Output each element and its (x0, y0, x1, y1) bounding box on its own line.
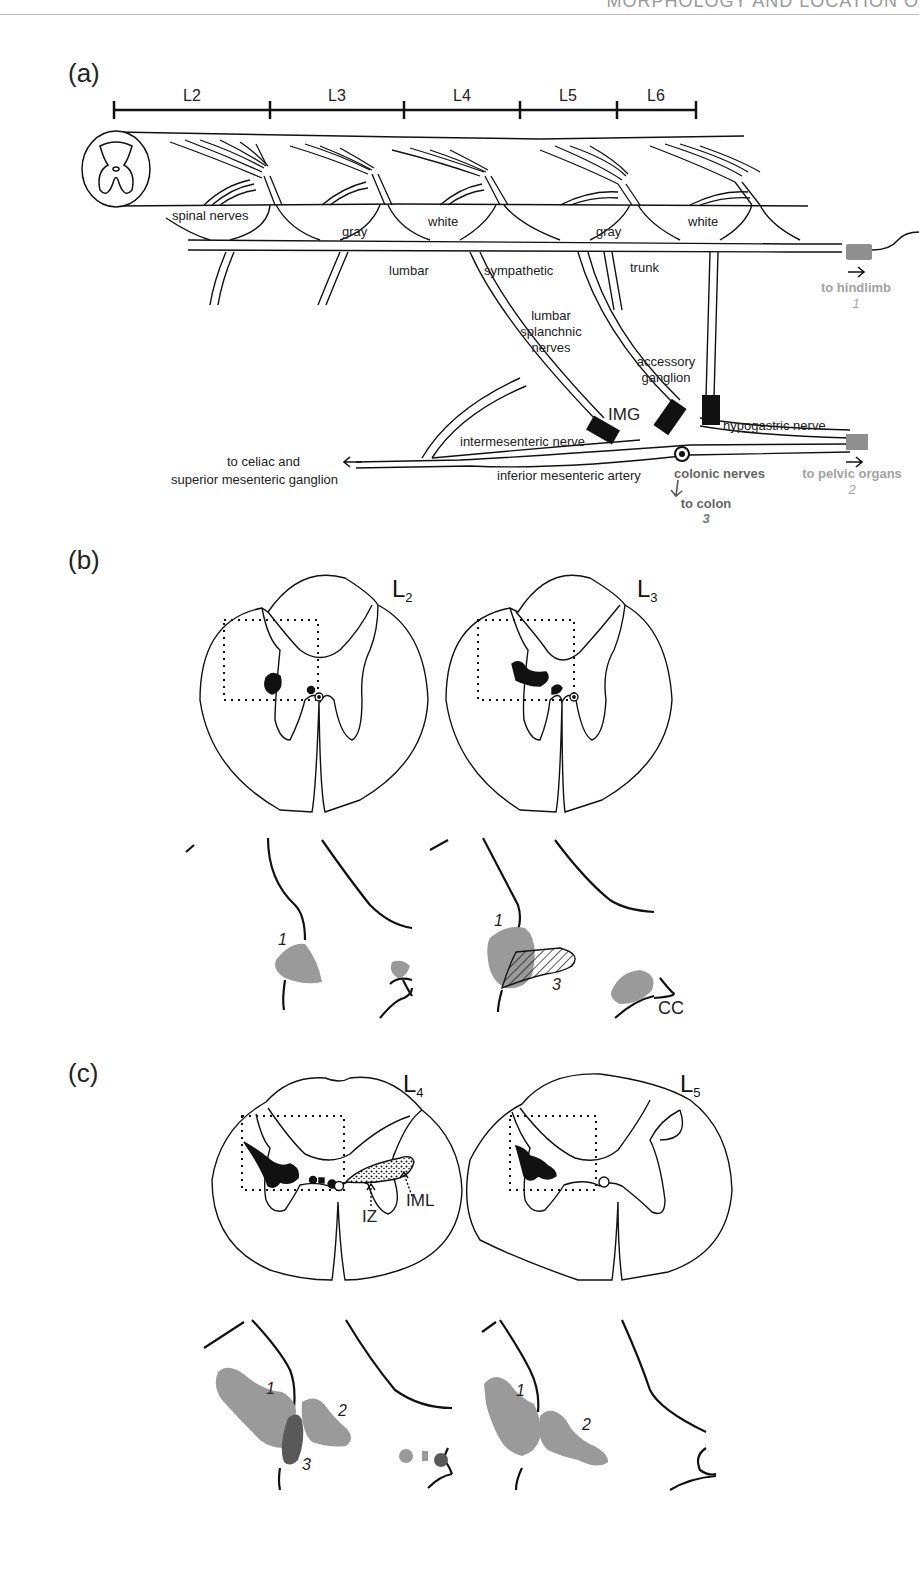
accessory-ganglion-block (702, 395, 720, 425)
label-accessory-ganglion: accessory (637, 354, 696, 369)
label-colonic-nerves: colonic nerves (674, 466, 765, 481)
label-to-celiac: to celiac and (227, 454, 300, 469)
segment-l3: L3 (328, 87, 346, 104)
label-ganglion: ganglion (641, 370, 690, 385)
label-nerves: nerves (531, 340, 571, 355)
label-img: IMG (608, 405, 640, 424)
label-pool-3: 3 (552, 976, 561, 993)
segment-l5: L5 (559, 87, 577, 104)
figure-canvas: L2 L3 L4 L5 L6 (0, 0, 919, 1587)
label-to-hindlimb: to hindlimb (821, 280, 891, 295)
label-superior-mesenteric-ganglion: superior mesenteric ganglion (171, 472, 338, 487)
label-to-colon-num: 3 (702, 511, 710, 526)
label-inferior-mesenteric-artery: inferior mesenteric artery (497, 468, 641, 483)
label-to-pelvic-organs: to pelvic organs (802, 466, 902, 481)
label-pool-2: 2 (581, 1416, 591, 1433)
label-pool-1: 1 (266, 1380, 275, 1397)
label-sympathetic: sympathetic (484, 263, 554, 278)
section-level-l4: L4 (403, 1070, 424, 1100)
arrows (344, 267, 864, 496)
arrow-down-icon (671, 480, 682, 496)
label-hypogastric-nerve: hypogastric nerve (723, 418, 826, 433)
label-pool-1: 1 (278, 931, 287, 948)
label-spinal-nerves: spinal nerves (172, 208, 249, 223)
hindlimb-target (846, 244, 872, 260)
label-splanchnic: splanchnic (520, 324, 582, 339)
label-iz: IZ (362, 1207, 377, 1226)
label-to-hindlimb-num: 1 (852, 296, 859, 311)
arrow-left-icon (344, 457, 362, 467)
label-pool-2: 2 (337, 1402, 347, 1419)
label-intermesenteric-nerve: intermesenteric nerve (460, 434, 585, 449)
label-central-canal: CC (658, 998, 684, 1018)
label-to-pelvic-num: 2 (847, 482, 856, 497)
section-l5 (467, 1074, 732, 1280)
label-iml: IML (406, 1191, 434, 1210)
detail-l3-pools (487, 927, 653, 1004)
label-lumbar-splanchnic: lumbar (531, 308, 571, 323)
arrow-right-icon (848, 267, 864, 277)
section-l3 (446, 575, 672, 812)
label-pool-1: 1 (494, 912, 503, 929)
label-gray-2: gray (596, 224, 622, 239)
segment-l2: L2 (183, 87, 201, 104)
section-level-l3: L3 (637, 575, 658, 605)
segment-scale-bar (114, 101, 696, 119)
target-boxes (846, 244, 872, 450)
pelvic-target (846, 434, 868, 450)
detail-l2 (186, 838, 412, 1018)
segment-l6: L6 (647, 87, 665, 104)
detail-l4-pools (216, 1368, 448, 1467)
section-level-l2: L2 (392, 575, 413, 605)
img-block-2 (653, 399, 686, 436)
label-trunk: trunk (630, 260, 659, 275)
label-pool-1: 1 (516, 1382, 525, 1399)
label-white-1: white (427, 214, 458, 229)
section-level-l5: L5 (680, 1070, 701, 1100)
label-to-colon: to colon (681, 496, 732, 511)
section-l4 (212, 1077, 462, 1280)
detail-l2-pools (275, 944, 410, 984)
spinal-rootlets (170, 140, 760, 205)
label-pool-3: 3 (302, 1456, 311, 1473)
label-white-2: white (687, 214, 718, 229)
section-l2 (200, 575, 428, 812)
label-gray-1: gray (342, 224, 368, 239)
segment-l4: L4 (453, 87, 471, 104)
label-lumbar: lumbar (389, 263, 429, 278)
